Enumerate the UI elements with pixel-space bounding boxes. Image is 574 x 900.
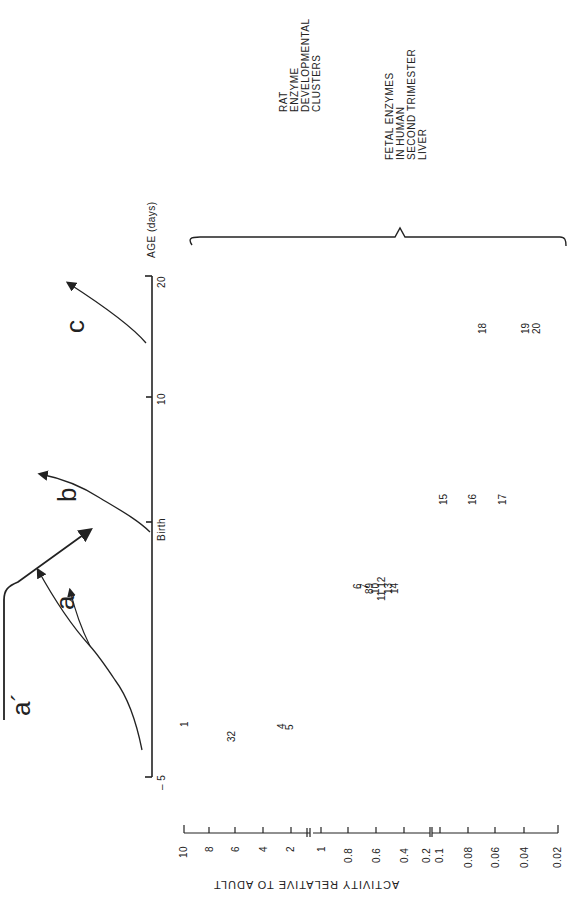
activity-tick: 0.02	[552, 847, 563, 868]
age-axis-label: AGE (days)	[146, 201, 157, 258]
point-20: 20	[531, 323, 542, 334]
activity-tick: 0.2	[421, 848, 432, 863]
curve-label-a: a	[50, 596, 81, 610]
activity-tick: 6	[230, 846, 241, 852]
activity-tick: 0.08	[463, 847, 474, 868]
rat-group-label: RAT ENZYME DEVELOPMENTAL CLUSTERS	[278, 18, 322, 112]
point-1: 1	[179, 721, 190, 727]
activity-tick: 0.4	[399, 848, 410, 863]
point-14: 14	[389, 583, 400, 594]
activity-tick: 0.8	[343, 848, 354, 863]
chart-lines	[0, 0, 574, 900]
activity-tick: 4	[258, 846, 269, 852]
point-16: 16	[467, 494, 478, 505]
activity-tick: 1	[316, 846, 327, 852]
activity-tick: 10	[178, 846, 189, 858]
point-18: 18	[477, 323, 488, 334]
point-19: 19	[520, 323, 531, 334]
curve-a-prime	[4, 530, 90, 720]
activity-tick: 0.6	[371, 848, 382, 863]
activity-tick: 2	[285, 846, 296, 852]
age-tick-birth: Birth	[156, 518, 167, 541]
curve-label-c: c	[60, 320, 91, 333]
curve-b	[40, 474, 150, 532]
activity-axis-label: ACTIVITY RELATIVE TO ADULT	[213, 879, 399, 890]
activity-axis	[184, 825, 558, 837]
point-3-2: 32	[226, 731, 237, 742]
human-group-label: FETAL ENZYMES IN HUMAN SECOND TRIMESTER …	[384, 49, 428, 160]
point-15: 15	[438, 494, 449, 505]
age-axis	[145, 276, 152, 777]
activity-tick: 8	[204, 846, 215, 852]
curve-label-b: b	[52, 488, 83, 502]
group-bracket	[190, 228, 566, 246]
age-tick-20: 20	[156, 276, 167, 288]
age-tick-10: 10	[156, 393, 167, 405]
curve-label-a-prime: a´	[6, 693, 37, 716]
curve-c	[68, 283, 146, 343]
point-17: 17	[497, 494, 508, 505]
activity-tick: 0.04	[519, 847, 530, 868]
age-tick-minus5: – 5	[156, 775, 167, 790]
activity-tick: 0.06	[490, 847, 501, 868]
activity-tick: 0.1	[434, 848, 445, 863]
point-5: 5	[284, 724, 295, 730]
